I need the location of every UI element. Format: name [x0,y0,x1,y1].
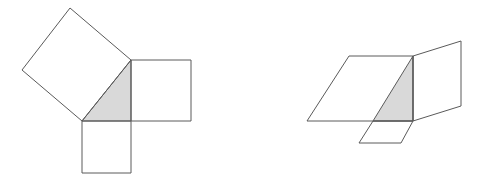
horizontal-leg-parallelogram [359,121,413,143]
figure-pythagoras-squares [22,8,191,173]
right-triangle [373,56,413,121]
horizontal-leg-square [82,121,131,173]
diagram-canvas [0,0,481,181]
figure-sheared-parallelograms [307,41,461,143]
diagram-svg [0,0,481,181]
vertical-leg-parallelogram [413,41,461,121]
vertical-leg-square [131,60,191,121]
